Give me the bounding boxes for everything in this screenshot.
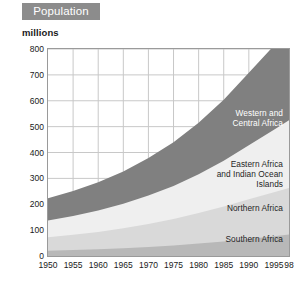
x-axis: 1950195519601965197019751980198519901995… <box>0 261 301 275</box>
series-label-southern-africa: Southern Africa <box>226 234 283 244</box>
chart-title-banner: Population <box>22 3 100 20</box>
page-title: Population <box>33 6 88 18</box>
x-axis-tick-1980: 1980 <box>189 261 208 270</box>
y-axis-tick-400: 400 <box>18 148 44 157</box>
x-axis-tick-1975: 1975 <box>164 261 183 270</box>
plot-area: Western and Central Africa Eastern Afric… <box>47 48 290 257</box>
y-axis: 8007006005004003002001000 <box>14 48 44 257</box>
y-axis-tick-300: 300 <box>18 174 44 183</box>
x-axis-tick-1965: 1965 <box>114 261 133 270</box>
x-axis-tick-1985: 1985 <box>214 261 233 270</box>
series-label-eastern-africa: Eastern Africa and Indian Ocean Islands <box>217 159 283 189</box>
x-axis-tick-1955: 1955 <box>64 261 83 270</box>
x-axis-tick-1995: 1995 <box>264 261 283 270</box>
y-axis-tick-100: 100 <box>18 226 44 235</box>
y-axis-tick-800: 800 <box>18 45 44 54</box>
y-axis-unit-label: millions <box>22 27 59 38</box>
y-axis-tick-500: 500 <box>18 122 44 131</box>
y-axis-tick-700: 700 <box>18 71 44 80</box>
chart-page: Population millions 80070060050040030020… <box>0 0 301 281</box>
y-axis-tick-600: 600 <box>18 97 44 106</box>
y-axis-tick-0: 0 <box>18 252 44 261</box>
x-axis-tick-1970: 1970 <box>139 261 158 270</box>
series-label-northern-africa: Northern Africa <box>227 203 283 213</box>
x-axis-tick-1990: 1990 <box>239 261 258 270</box>
x-axis-tick-1960: 1960 <box>89 261 108 270</box>
stacked-area-chart <box>48 49 289 256</box>
x-axis-tick-1950: 1950 <box>39 261 58 270</box>
series-label-western-central-africa: Western and Central Africa <box>232 108 283 128</box>
x-axis-tick-98: 98 <box>284 261 293 270</box>
y-axis-tick-200: 200 <box>18 200 44 209</box>
